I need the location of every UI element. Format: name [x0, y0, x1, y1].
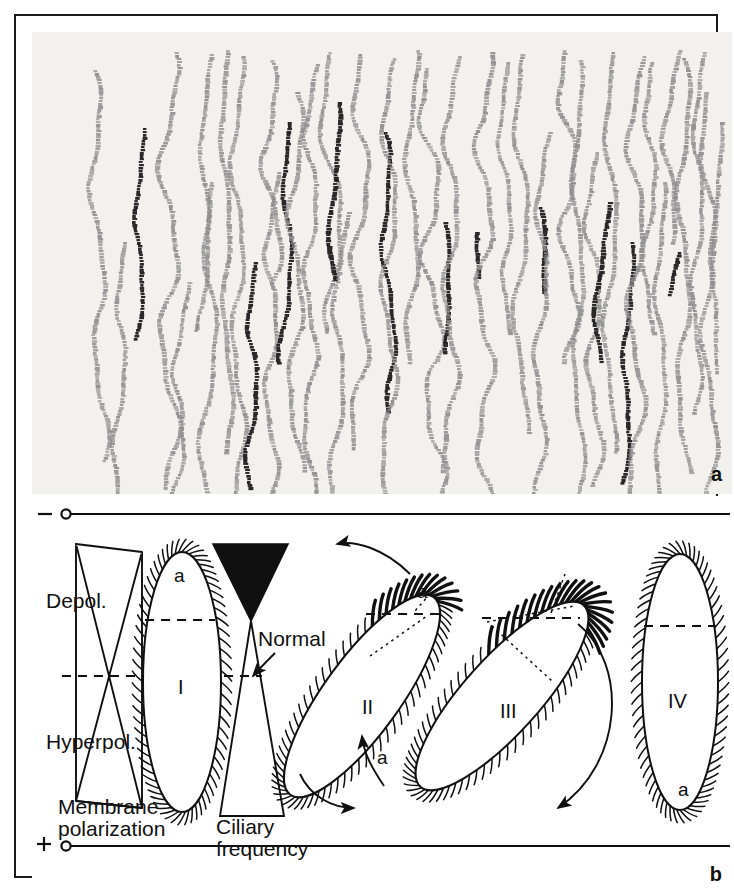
- track-segment: [228, 239, 232, 242]
- track-segment: [388, 76, 392, 79]
- track-segment: [330, 261, 334, 264]
- track-segment: [392, 211, 397, 213]
- track-segment: [521, 384, 525, 387]
- track-segment: [120, 263, 124, 265]
- track-segment: [236, 389, 239, 392]
- track-segment: [443, 443, 448, 445]
- track-segment: [587, 200, 591, 202]
- track-segment: [582, 221, 586, 224]
- track-segment: [305, 253, 309, 256]
- track-segment: [556, 107, 560, 110]
- track-segment: [227, 434, 231, 437]
- track-segment: [297, 443, 302, 446]
- track-segment: [629, 461, 633, 463]
- track-segment: [290, 350, 295, 352]
- track-segment: [386, 207, 389, 210]
- track-segment: [505, 74, 509, 76]
- track-segment: [455, 68, 459, 71]
- track-segment: [596, 323, 600, 326]
- track-segment: [123, 245, 127, 248]
- track-segment: [434, 194, 439, 196]
- track-segment: [564, 209, 569, 211]
- track-segment: [262, 382, 266, 385]
- track-segment: [122, 341, 126, 343]
- track-segment: [351, 243, 356, 246]
- track-segment: [449, 167, 453, 170]
- track-segment: [380, 234, 384, 236]
- track-segment: [559, 83, 564, 86]
- track-segment: [681, 229, 686, 231]
- track-segment: [430, 284, 435, 286]
- track-segment: [429, 281, 434, 284]
- track-segment: [273, 289, 278, 291]
- track-segment: [544, 300, 548, 303]
- track-segment: [143, 134, 146, 137]
- track-segment: [203, 269, 207, 271]
- track-segment: [334, 177, 339, 180]
- track-segment: [386, 201, 389, 204]
- track-segment: [507, 185, 511, 188]
- cilium: [657, 793, 661, 807]
- track-segment: [448, 104, 453, 107]
- track-segment: [260, 153, 265, 155]
- track-segment: [535, 333, 539, 335]
- track-segment: [314, 223, 318, 225]
- track-segment: [237, 104, 241, 107]
- track-segment: [478, 166, 482, 169]
- track-segment: [472, 151, 477, 154]
- track-segment: [171, 235, 175, 237]
- track-segment: [384, 154, 389, 157]
- track-segment: [531, 357, 535, 360]
- track-segment: [522, 264, 526, 267]
- track-segment: [231, 395, 236, 398]
- track-segment: [427, 413, 432, 416]
- track-segment: [269, 439, 274, 441]
- track-segment: [714, 299, 718, 301]
- track-segment: [381, 231, 386, 233]
- track-segment: [606, 295, 611, 298]
- track-segment: [140, 158, 144, 160]
- track-segment: [169, 205, 173, 208]
- track-segment: [711, 416, 715, 419]
- cell-II-rotation-arrow-top-icon: [337, 543, 410, 574]
- track-segment: [270, 120, 275, 123]
- track-segment: [428, 146, 433, 149]
- track-segment: [608, 169, 612, 171]
- track-segment: [132, 221, 136, 224]
- track-segment: [631, 251, 634, 254]
- track-segment: [253, 388, 258, 390]
- track-segment: [118, 410, 122, 413]
- track-segment: [583, 453, 587, 456]
- track-segment: [200, 467, 204, 470]
- track-segment: [338, 190, 341, 193]
- track-segment: [505, 176, 508, 178]
- cilium: [220, 648, 231, 658]
- track-segment: [252, 424, 256, 426]
- track-segment: [525, 405, 529, 408]
- track-segment: [324, 301, 328, 304]
- track-segment: [116, 293, 119, 296]
- track-segment: [434, 206, 439, 208]
- track-segment: [661, 347, 665, 350]
- track-segment: [476, 439, 481, 442]
- track-segment: [446, 119, 450, 122]
- track-segment: [507, 194, 511, 196]
- panel-a-letter: a: [711, 463, 722, 486]
- track-segment: [711, 233, 716, 235]
- track-segment: [485, 91, 490, 94]
- track-segment: [595, 260, 600, 262]
- track-segment: [714, 320, 718, 322]
- track-segment: [508, 239, 512, 241]
- track-segment: [443, 446, 447, 449]
- track-segment: [587, 242, 591, 244]
- track-segment: [583, 444, 587, 447]
- track-segment: [200, 132, 203, 135]
- track-segment: [388, 147, 393, 150]
- track-segment: [337, 220, 341, 222]
- track-segment: [231, 338, 234, 341]
- track-segment: [245, 442, 250, 444]
- track-segment: [103, 286, 108, 288]
- track-segment: [390, 306, 394, 308]
- track-segment: [303, 445, 307, 448]
- track-segment: [656, 473, 660, 476]
